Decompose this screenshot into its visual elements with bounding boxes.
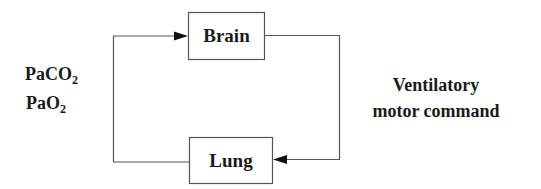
left-feedback-line xyxy=(114,36,190,162)
ventilatory-label: Ventilatory xyxy=(358,75,514,96)
pao2-label: PaO2 xyxy=(26,93,66,114)
pao2-subscript: 2 xyxy=(60,102,66,116)
motor-command-label: motor command xyxy=(357,101,515,122)
paco2-label: PaCO2 xyxy=(25,64,78,85)
arrowhead-to-brain-icon xyxy=(174,32,188,41)
right-command-line xyxy=(265,36,340,160)
paco2-subscript: 2 xyxy=(72,73,78,87)
pao2-main: PaO xyxy=(26,93,60,113)
lung-label: Lung xyxy=(189,137,273,184)
paco2-main: PaCO xyxy=(25,64,72,84)
brain-label: Brain xyxy=(188,12,265,60)
arrowhead-to-lung-icon xyxy=(273,155,287,164)
